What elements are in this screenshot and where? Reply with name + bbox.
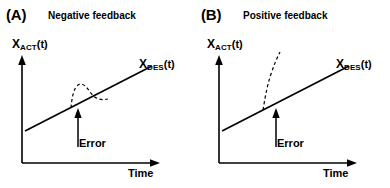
y-axis-negative bbox=[18, 55, 26, 163]
desired-trajectory-line-negative bbox=[25, 66, 152, 131]
error-label-negative: Error bbox=[79, 138, 106, 149]
x-axis-label-negative: Time bbox=[128, 168, 153, 179]
x-axis-label-positive: Time bbox=[323, 168, 348, 179]
des-subscript: DES bbox=[344, 63, 361, 72]
desired-trajectory-label-positive: XDES(t) bbox=[336, 58, 372, 70]
x-axis-positive bbox=[219, 159, 357, 167]
x-axis-negative bbox=[22, 159, 160, 167]
y-axis-argument: (t) bbox=[232, 38, 243, 50]
panel-negative-feedback: (A) Negative feedback XACT( bbox=[0, 0, 195, 188]
y-axis-argument: (t) bbox=[37, 38, 48, 50]
y-axis-symbol: X bbox=[207, 37, 215, 51]
y-axis-symbol: X bbox=[12, 37, 20, 51]
y-axis-label-positive: XACT(t) bbox=[207, 38, 243, 50]
des-symbol: X bbox=[139, 57, 147, 71]
y-axis-subscript: ACT bbox=[20, 43, 37, 52]
desired-trajectory-label-negative: XDES(t) bbox=[139, 58, 175, 70]
des-symbol: X bbox=[336, 57, 344, 71]
feedback-comparison-figure: (A) Negative feedback XACT( bbox=[0, 0, 390, 188]
plot-area-positive-feedback bbox=[195, 0, 390, 188]
des-subscript: DES bbox=[147, 63, 164, 72]
y-axis-subscript: ACT bbox=[215, 43, 232, 52]
y-axis-label-negative: XACT(t) bbox=[12, 38, 48, 50]
des-argument: (t) bbox=[361, 58, 372, 70]
desired-trajectory-line-positive bbox=[222, 66, 349, 131]
error-label-positive: Error bbox=[277, 138, 304, 149]
des-argument: (t) bbox=[164, 58, 175, 70]
y-axis-positive bbox=[215, 55, 223, 163]
panel-positive-feedback: (B) Positive feedback XACT( bbox=[195, 0, 390, 188]
plot-area-negative-feedback bbox=[0, 0, 195, 188]
actual-trajectory-curve-positive bbox=[263, 52, 280, 110]
